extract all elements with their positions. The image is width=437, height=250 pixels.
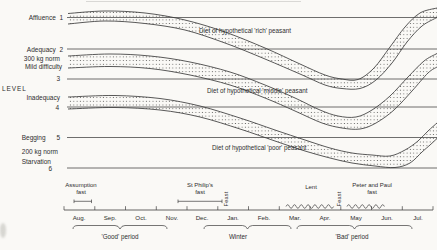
month-oct: Oct. xyxy=(125,214,157,221)
lent-label: Lent xyxy=(291,184,331,191)
month-apr: Apr. xyxy=(309,214,341,221)
month-aug: Aug. xyxy=(63,214,95,221)
feast-label-christmas: Feast xyxy=(223,186,231,212)
assumption-fast-bracket xyxy=(74,200,92,204)
good-period-label: 'Good' period xyxy=(90,233,150,240)
month-nov: Nov. xyxy=(156,214,188,221)
level-label-starvation: Starvation xyxy=(22,158,51,165)
peter-paul-wave xyxy=(347,205,384,209)
level-label-mild-difficulty: Mild difficulty xyxy=(25,63,62,70)
level-label-begging-5: Begging 5 xyxy=(22,134,60,141)
assumption-fast-line1: Assumption xyxy=(49,182,113,189)
month-jul: Jul. xyxy=(402,214,434,221)
month-jun: Jun. xyxy=(371,214,403,221)
period-braces xyxy=(73,226,412,230)
peter-and-paul-line2: fast xyxy=(332,189,412,196)
level-number-4: 4 xyxy=(55,104,59,111)
level-label-affluence-1: Affluence 1 xyxy=(29,14,63,21)
chart-canvas xyxy=(0,0,437,250)
peter-and-paul-fast-label: Peter and Paul fast xyxy=(332,182,412,196)
winter-brace xyxy=(204,226,291,230)
bad-period-brace xyxy=(297,226,412,230)
good-period-brace xyxy=(73,226,167,230)
st-philips-fast-bracket xyxy=(178,200,222,204)
level-label-inadequacy: Inadequacy xyxy=(26,94,60,101)
diet-levels-figure: LEVEL Affluence 1 Adequacy 2 300 kg norm… xyxy=(0,0,437,250)
level-number-3: 3 xyxy=(56,75,60,82)
month-feb: Feb. xyxy=(248,214,280,221)
assumption-fast-line2: fast xyxy=(49,189,113,196)
month-sep: Sep. xyxy=(94,214,126,221)
level-label-200kg-norm: 200 kg norm xyxy=(22,148,58,155)
level-label-300kg-norm: 300 kg norm xyxy=(24,55,60,62)
winter-label: Winter xyxy=(208,233,268,240)
month-dec: Dec. xyxy=(186,214,218,221)
feast-label-easter: Feast xyxy=(336,186,344,212)
y-axis-title: LEVEL xyxy=(2,85,27,92)
band-label-poor: Diet of hypothetical 'poor' peasant xyxy=(212,144,306,151)
assumption-fast-label: Assumption fast xyxy=(49,182,113,196)
bad-period-label: 'Bad' period xyxy=(322,233,382,240)
level-label-adequacy-2: Adequacy 2 xyxy=(27,46,63,53)
month-mar: Mar. xyxy=(279,214,311,221)
band-label-middle: Diet of hypothetical 'middle' peasant xyxy=(207,87,307,94)
month-may: May xyxy=(340,214,372,221)
peter-and-paul-line1: Peter and Paul xyxy=(332,182,412,189)
band-label-rich: Diet of hypothetical 'rich' peasant xyxy=(199,27,291,34)
month-jan: Jan. xyxy=(217,214,249,221)
level-number-6: 6 xyxy=(48,165,52,172)
